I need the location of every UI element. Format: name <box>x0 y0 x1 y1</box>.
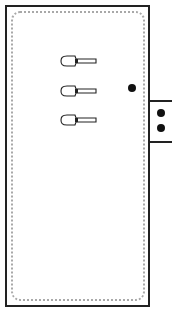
toggle-switch-icon <box>60 113 98 127</box>
toggle-switch-icon <box>60 84 98 98</box>
connector-dot-icon <box>157 109 165 117</box>
side-connector-box <box>148 100 172 143</box>
toggle-switch-icon <box>60 54 98 68</box>
connector-dot-icon <box>157 124 165 132</box>
indicator-dot-icon <box>128 84 136 92</box>
